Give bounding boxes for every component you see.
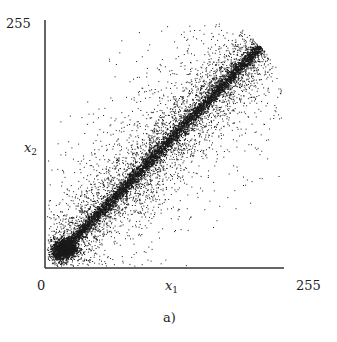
scatter-points <box>47 24 282 267</box>
y-axis-label-sub: 2 <box>31 147 37 157</box>
y-axis-label: x2 <box>24 141 37 157</box>
x-axis-label-sub: 1 <box>172 285 178 295</box>
x-axis-min-label: 0 <box>37 279 45 292</box>
x-axis-label: x1 <box>165 279 178 295</box>
figure-caption: a) <box>163 311 176 324</box>
y-axis-max-label: 255 <box>6 17 31 30</box>
x-axis-max-label: 255 <box>296 279 321 292</box>
